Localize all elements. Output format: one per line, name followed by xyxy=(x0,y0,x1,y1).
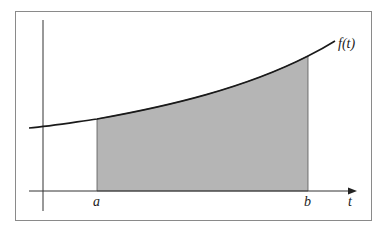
curve-label: f(t) xyxy=(338,36,355,52)
lower-bound-label: a xyxy=(93,194,100,209)
upper-bound-label: b xyxy=(304,194,311,209)
area-under-curve-diagram: f(t) a b t xyxy=(0,0,387,233)
